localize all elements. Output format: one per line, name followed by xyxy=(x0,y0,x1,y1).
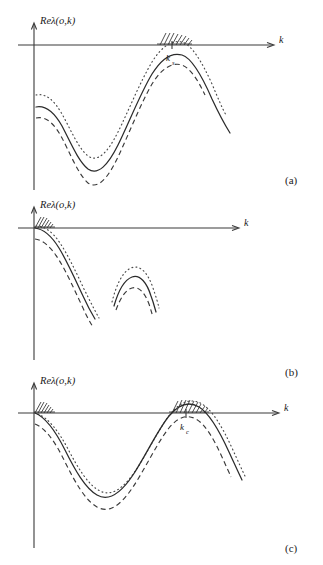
panel-c-curve-solid xyxy=(35,404,242,497)
panel-c-xlabel: k xyxy=(284,402,289,413)
panel-b-ylabel: Reλ(o,k) xyxy=(39,199,76,211)
panel-b-caption: (b) xyxy=(285,366,298,379)
panel-a-curve-solid xyxy=(36,54,230,171)
panel-c-hatched-band-right xyxy=(169,400,209,413)
panel-c-kc-subscript: c xyxy=(186,428,189,435)
panel-a-hatched-band xyxy=(157,33,192,45)
panel-c-curve-dotted xyxy=(38,401,245,493)
panel-a: Reλ(o,k) k k s (a) xyxy=(18,15,298,190)
panel-c-curve-dashed xyxy=(35,417,231,510)
panel-c-ylabel: Reλ(o,k) xyxy=(39,375,76,387)
dispersion-relation-figure: Reλ(o,k) k k s (a) xyxy=(0,0,323,565)
panel-a-x-axis xyxy=(18,42,274,47)
panel-a-ks-label: k xyxy=(166,53,171,63)
panel-a-caption: (a) xyxy=(285,174,298,187)
panel-b-hump-dashed xyxy=(116,288,153,317)
panel-a-ylabel: Reλ(o,k) xyxy=(39,15,76,27)
panel-c-caption: (c) xyxy=(285,542,298,555)
panel-b-y-axis xyxy=(31,207,36,360)
panel-c: Reλ(o,k) k xyxy=(18,375,298,555)
panel-b-xlabel: k xyxy=(244,217,249,228)
panel-a-ks-subscript: s xyxy=(172,59,175,66)
panel-a-curve-dotted xyxy=(36,42,226,158)
panel-c-kc-label: k xyxy=(180,422,185,432)
panel-c-y-axis xyxy=(31,383,36,548)
panel-c-x-axis xyxy=(18,410,279,415)
panel-b-hump-solid xyxy=(114,276,156,312)
panel-b-curve-solid xyxy=(35,228,95,319)
panel-b-curve-dotted xyxy=(36,226,99,318)
panel-b-curve-dashed xyxy=(35,239,93,327)
panel-a-xlabel: k xyxy=(279,34,284,45)
panel-c-hatched-band-left xyxy=(34,402,55,413)
panel-b: Reλ(o,k) k (b) xyxy=(18,199,298,379)
